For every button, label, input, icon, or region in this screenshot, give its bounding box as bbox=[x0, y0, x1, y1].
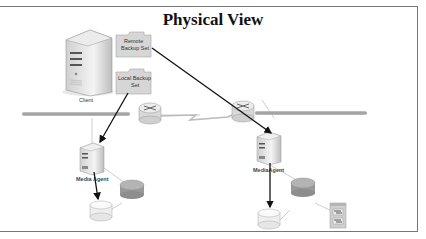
hub-icon bbox=[120, 180, 144, 199]
remote-backup-set-folder[interactable]: Remote Backup Set bbox=[116, 32, 151, 57]
server-icon bbox=[257, 132, 281, 165]
local-backup-label-1: Local Backup bbox=[118, 75, 151, 81]
tape-library-icon bbox=[330, 203, 346, 228]
hub-icon bbox=[291, 178, 315, 197]
lightning-link-icon bbox=[158, 112, 238, 120]
disk-storage-icon bbox=[258, 209, 280, 229]
media-agent-right[interactable]: MediaAgent bbox=[253, 132, 284, 173]
client-label: Client bbox=[79, 97, 94, 103]
media-agent-right-label: MediaAgent bbox=[253, 167, 284, 173]
arrow-remote-to-media-agent bbox=[152, 48, 271, 133]
lan-backbone-left bbox=[22, 112, 130, 116]
physical-view-diagram: Client Remote Backup Set Local Backup Se… bbox=[0, 0, 426, 239]
media-agent-left-label: Media Agent bbox=[76, 176, 109, 182]
remote-backup-label-2: Backup Set bbox=[121, 45, 150, 51]
local-backup-set-folder[interactable]: Local Backup Set bbox=[116, 69, 151, 94]
arrow-local-to-media-agent bbox=[100, 93, 128, 142]
media-agent-left[interactable]: Media Agent bbox=[76, 143, 109, 182]
lan-backbone-right bbox=[255, 111, 367, 115]
network-links bbox=[92, 100, 340, 225]
server-icon bbox=[80, 143, 104, 175]
local-backup-label-2: Set bbox=[131, 82, 140, 88]
remote-backup-label-1: Remote bbox=[124, 38, 143, 44]
disk-storage-icon bbox=[90, 201, 112, 221]
router-icon bbox=[139, 103, 161, 124]
server-tower-icon bbox=[62, 30, 114, 96]
